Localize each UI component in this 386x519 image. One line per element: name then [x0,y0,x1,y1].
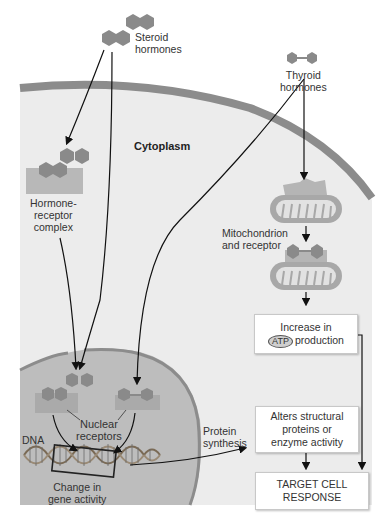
hormone-receptor-complex-label: Hormone- receptor complex [30,197,77,233]
nuclear-label-line2: receptors [76,430,122,442]
atp-badge: ATP [268,335,293,348]
change-in-gene-activity-label: Change in gene activity [48,481,106,505]
cytoplasm-label: Cytoplasm [134,140,190,152]
complex-label-line1: Hormone- [30,197,77,209]
alters-structural-proteins-box: Alters structural proteins or enzyme act… [255,406,359,453]
steroid-label-line2: hormones [135,43,182,55]
thyroid-hormones-label: Thyroid hormones [280,69,327,93]
response-line1: TARGET CELL [277,478,348,491]
mito-label-line1: Mitochondrion [222,227,288,239]
alters-line3: enzyme activity [271,436,343,449]
nuclear-label-line1: Nuclear [76,418,122,430]
steroid-label-line1: Steroid [135,31,182,43]
protein-label-line2: synthesis [203,437,247,449]
dna-label: DNA [22,434,44,446]
thyroid-hormone-icon [287,52,317,64]
nuclear-receptors-label: Nuclear receptors [76,418,122,442]
mito-label-line2: and receptor [222,239,288,251]
complex-label-line3: complex [30,221,77,233]
atp-box-line2: ATPproduction [268,334,344,348]
thyroid-label-line2: hormones [280,81,327,93]
thyroid-label-line1: Thyroid [280,69,327,81]
increase-atp-box: Increase in ATPproduction [254,314,358,354]
protein-label-line1: Protein [203,425,247,437]
gene-label-line2: gene activity [48,493,106,505]
gene-label-line1: Change in [48,481,106,493]
atp-production-text: production [295,334,344,346]
steroid-hormones-label: Steroid hormones [135,31,182,55]
alters-line2: proteins or [282,423,332,436]
mitochondrion-receptor-label: Mitochondrion and receptor [222,227,288,251]
protein-synthesis-label: Protein synthesis [203,425,247,449]
atp-box-line1: Increase in [280,321,331,334]
target-cell-response-box: TARGET CELL RESPONSE [255,472,369,510]
complex-label-line2: receptor [30,209,77,221]
alters-line1: Alters structural [271,410,344,423]
response-line2: RESPONSE [283,491,341,504]
